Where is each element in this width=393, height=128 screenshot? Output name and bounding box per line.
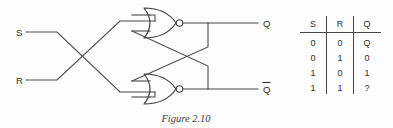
- cell-r: 1: [337, 83, 342, 93]
- nor-gate-top-bubble: [176, 20, 182, 26]
- nor-gate-bottom-bubble: [176, 86, 182, 92]
- table-row: 1 1 ?: [310, 83, 369, 93]
- reset-input-label: R: [16, 75, 23, 86]
- cell-r: 1: [337, 53, 342, 63]
- nor-gate-bottom: [144, 74, 183, 104]
- truth-table: S R Q 0 0 Q 0 1 0 1 0 1 1: [300, 16, 381, 94]
- set-input-label: S: [16, 27, 22, 38]
- table-header-q: Q: [363, 19, 370, 29]
- table-row: 1 0 1: [310, 68, 369, 78]
- cell-q: ?: [364, 83, 369, 93]
- table-header-r: R: [337, 19, 344, 29]
- cell-s: 0: [310, 38, 315, 48]
- cell-s: 0: [310, 53, 315, 63]
- reset-input-wire: [26, 21, 155, 80]
- cell-r: 0: [337, 38, 342, 48]
- cell-s: 1: [310, 68, 315, 78]
- q-output-label: Q: [263, 18, 270, 29]
- cell-r: 0: [337, 68, 342, 78]
- q-feedback-wire: [132, 23, 208, 81]
- cell-q: 1: [364, 68, 369, 78]
- q-bar-output-label: Q: [263, 84, 270, 95]
- set-to-nor-bot: [150, 92, 155, 97]
- cell-q: 0: [364, 53, 369, 63]
- cell-q: Q: [363, 38, 370, 48]
- table-row: 0 0 Q: [310, 38, 370, 48]
- sr-latch-figure: S R: [0, 0, 393, 128]
- set-input-wire: [26, 32, 155, 92]
- figure-container: S R: [0, 0, 393, 128]
- figure-caption: Figure 2.10: [160, 113, 211, 124]
- nor-gate-top: [144, 8, 183, 38]
- q-bar-feedback-wire: [132, 31, 208, 89]
- reset-to-nor-top: [150, 15, 155, 21]
- table-header-s: S: [310, 19, 316, 29]
- table-row: 0 1 0: [310, 53, 369, 63]
- cell-s: 1: [310, 83, 315, 93]
